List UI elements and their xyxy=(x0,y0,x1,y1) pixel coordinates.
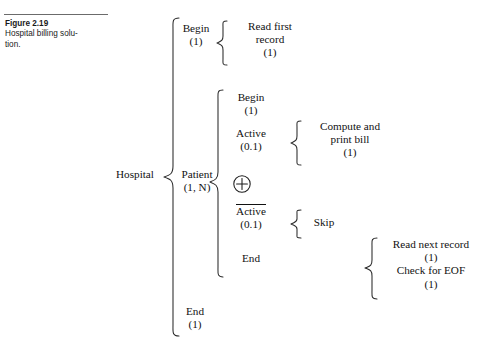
node-patient-not-active-count: (0.1) xyxy=(222,218,280,231)
caption-divider xyxy=(4,14,108,15)
node-hospital-label: Hospital xyxy=(104,168,166,181)
node-read-next-record: Read next record (1) Check for EOF (1) xyxy=(376,238,486,291)
node-read-first-record-line1: Read first xyxy=(228,20,312,33)
node-compute-print-bill: Compute and print bill (1) xyxy=(302,120,398,160)
node-end-count: (1) xyxy=(166,318,224,331)
node-read-first-record: Read first record (1) xyxy=(228,20,312,60)
node-patient-active-count: (0.1) xyxy=(222,140,280,153)
node-patient-active-label: Active xyxy=(222,127,280,140)
node-skip-label: Skip xyxy=(302,216,346,229)
node-patient-end-label: End xyxy=(222,252,280,265)
node-patient-active: Active (0.1) xyxy=(222,127,280,153)
node-read-next-record-count1: (1) xyxy=(376,251,486,264)
node-read-first-record-line2: record xyxy=(228,33,312,46)
oplus-icon xyxy=(231,173,253,199)
node-patient-begin-label: Begin xyxy=(222,91,280,104)
node-patient-begin-count: (1) xyxy=(222,104,280,117)
node-patient-begin: Begin (1) xyxy=(222,91,280,117)
node-check-for-eof-line: Check for EOF xyxy=(376,264,486,277)
node-read-next-record-line1: Read next record xyxy=(376,238,486,251)
node-compute-print-bill-count: (1) xyxy=(302,146,398,159)
node-read-first-record-count: (1) xyxy=(228,46,312,59)
node-compute-print-bill-line1: Compute and xyxy=(302,120,398,133)
figure-page: Figure 2.19 Hospital billing solu- tion.… xyxy=(0,0,489,352)
node-end: End (1) xyxy=(166,305,224,331)
node-check-for-eof-count: (1) xyxy=(376,278,486,291)
node-end-label: End xyxy=(166,305,224,318)
node-compute-print-bill-line2: print bill xyxy=(302,133,398,146)
figure-number: Figure 2.19 xyxy=(5,19,109,29)
figure-caption-line2: tion. xyxy=(5,40,109,50)
node-patient-end: End xyxy=(222,252,280,265)
node-patient-not-active: Active (0.1) xyxy=(222,204,280,231)
node-patient-not-active-label: Active xyxy=(236,204,266,218)
figure-caption: Figure 2.19 Hospital billing solu- tion. xyxy=(5,19,109,50)
node-skip: Skip xyxy=(302,216,346,229)
node-hospital: Hospital xyxy=(104,168,166,181)
figure-caption-line1: Hospital billing solu- xyxy=(5,29,109,39)
